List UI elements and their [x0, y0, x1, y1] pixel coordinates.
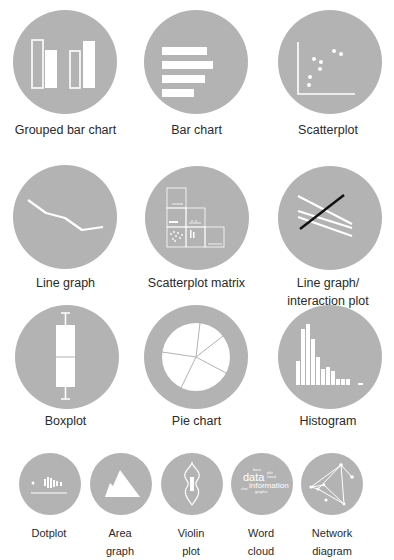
tile-scatterplot[interactable]: Scatterplot [262, 0, 394, 150]
tile-histogram[interactable]: Histogram [262, 300, 394, 435]
bar-chart-icon [144, 10, 248, 114]
tile-word-cloud[interactable]: bars data plot visual information graphs… [226, 450, 296, 560]
tile-label-line2: graph [85, 543, 155, 559]
tile-label: Boxplot [0, 413, 131, 430]
tile-label-line2: diagram [296, 543, 368, 559]
tile-line-graph[interactable]: Line graph [0, 150, 131, 300]
svg-text:chart: chart [241, 487, 248, 491]
tile-label: Bar chart [131, 122, 262, 139]
tile-violin-plot[interactable]: Violin plot [156, 450, 226, 560]
scatterplot-icon [278, 10, 382, 114]
tile-label-line1: Area [85, 525, 155, 541]
violin-plot-icon [161, 453, 223, 515]
tile-label-line1: Violin [156, 525, 226, 541]
svg-text:graphs: graphs [255, 489, 267, 494]
line-graph-icon [13, 165, 117, 269]
tile-label-line1: Line graph/ [262, 275, 394, 292]
tile-label-line2: cloud [226, 543, 296, 559]
area-graph-icon [90, 453, 152, 515]
tile-bar-chart[interactable]: Bar chart [131, 0, 262, 150]
tile-area-graph[interactable]: Area graph [85, 450, 155, 560]
tile-label-line1: Word [226, 525, 296, 541]
svg-text:visual: visual [267, 475, 276, 479]
tile-scatterplot-matrix[interactable]: Scatterplot matrix [131, 150, 262, 300]
pie-chart-icon [144, 305, 248, 409]
histogram-icon [278, 305, 382, 409]
grouped-bar-chart-icon [13, 10, 117, 114]
tile-label: Line graph [0, 275, 131, 292]
dotplot-icon [19, 453, 81, 515]
tile-label: Scatterplot matrix [131, 275, 262, 292]
interaction-plot-icon [278, 166, 382, 270]
tile-label-line1: Dotplot [14, 525, 84, 541]
tile-network-diagram[interactable]: Network diagram [296, 450, 368, 560]
network-diagram-icon [301, 453, 363, 515]
tile-label-line1: Network [296, 525, 368, 541]
tile-label-line2: plot [156, 543, 226, 559]
tile-pie-chart[interactable]: Pie chart [131, 300, 262, 435]
tile-label: Scatterplot [262, 122, 394, 139]
tile-label: Pie chart [131, 413, 262, 430]
tile-grouped-bar-chart[interactable]: Grouped bar chart [0, 0, 131, 150]
boxplot-icon [15, 305, 119, 409]
tile-dotplot[interactable]: Dotplot [14, 450, 84, 560]
tile-label: Histogram [262, 413, 394, 430]
word-cloud-icon: bars data plot visual information graphs… [231, 453, 293, 515]
scatterplot-matrix-icon [145, 166, 249, 270]
tile-boxplot[interactable]: Boxplot [0, 300, 131, 435]
tile-label: Grouped bar chart [0, 122, 131, 139]
tile-interaction-plot[interactable]: Line graph/ interaction plot [262, 150, 394, 310]
